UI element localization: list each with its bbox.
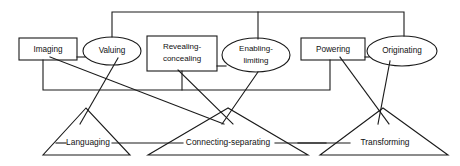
- connector-layer: [43, 12, 404, 143]
- top-row-shapes: Imaging Valuing Revealing- concealing En…: [19, 36, 437, 72]
- node-powering[interactable]: Powering: [301, 38, 365, 60]
- bottom-row-shapes: Languaging Connecting-separating Transfo…: [43, 108, 448, 155]
- node-revealing-concealing[interactable]: Revealing- concealing: [147, 36, 217, 71]
- node-enabling-limiting[interactable]: Enabling- limiting: [222, 38, 290, 72]
- revealing-concealing-label-line1: Revealing-: [163, 42, 202, 51]
- node-languaging[interactable]: Languaging: [43, 108, 130, 155]
- transforming-label: Transforming: [360, 137, 409, 147]
- originating-label: Originating: [382, 46, 422, 55]
- languaging-label: Languaging: [66, 137, 110, 147]
- enabling-limiting-label-line2: limiting: [244, 56, 269, 65]
- connector-powering-to-transforming: [340, 57, 389, 124]
- powering-label: Powering: [316, 45, 351, 54]
- languaging-triangle[interactable]: [43, 108, 130, 155]
- enabling-limiting-ellipse[interactable]: [222, 38, 290, 72]
- node-transforming[interactable]: Transforming: [320, 108, 448, 155]
- transforming-triangle[interactable]: [320, 108, 448, 155]
- connector-enabling-to-connecting: [222, 72, 258, 124]
- revealing-concealing-label-line2: concealing: [163, 54, 201, 63]
- connector-originating-to-transforming: [378, 61, 390, 124]
- connector-revealing-to-connecting: [178, 70, 233, 124]
- connecting-separating-label: Connecting-separating: [186, 137, 271, 147]
- node-valuing[interactable]: Valuing: [83, 37, 141, 65]
- node-imaging[interactable]: Imaging: [19, 38, 77, 60]
- concept-diagram: Imaging Valuing Revealing- concealing En…: [0, 0, 460, 166]
- enabling-limiting-label-line1: Enabling-: [239, 44, 273, 53]
- connector-mid-bus: [43, 60, 330, 90]
- node-originating[interactable]: Originating: [367, 36, 437, 66]
- valuing-label: Valuing: [99, 46, 126, 55]
- diagram-canvas: Imaging Valuing Revealing- concealing En…: [0, 0, 460, 166]
- connector-valuing-to-languaging: [80, 58, 118, 124]
- imaging-label: Imaging: [33, 45, 63, 54]
